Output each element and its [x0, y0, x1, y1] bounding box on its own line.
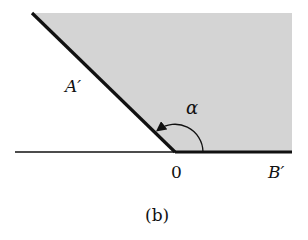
ray-a-label: A′: [63, 76, 81, 96]
origin-label: 0: [171, 162, 182, 182]
angle-label: α: [186, 97, 198, 118]
ray-b-label: B′: [267, 162, 284, 182]
wedge-diagram: α A′ 0 B′ (b): [0, 0, 308, 240]
figure-caption: (b): [145, 205, 169, 225]
